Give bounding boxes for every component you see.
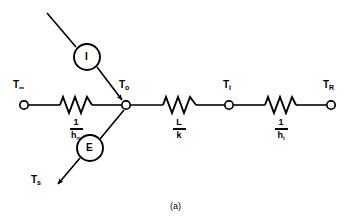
wire-I-upper-lead xyxy=(47,13,76,47)
node-terminal-t-infinity xyxy=(20,101,28,109)
node-terminal-t-i xyxy=(225,101,233,109)
node-label-t-zero: To xyxy=(119,80,129,90)
current-source-I-label: I xyxy=(85,52,88,62)
node-label-t-infinity: T∞ xyxy=(13,80,24,90)
node-terminal-t-zero xyxy=(122,101,130,109)
resistor-label-conduction: L k xyxy=(166,118,192,140)
fraction-numerator: 1 xyxy=(63,118,89,128)
thermal-circuit-diagram: T∞ To Ti TR Ts I E 1 h∞ L k 1 hi (a) xyxy=(0,0,356,223)
circuit-schematic-svg xyxy=(0,0,356,223)
node-terminal-t-r xyxy=(327,101,335,109)
wire-E-lower-lead-arrow xyxy=(58,158,80,184)
resistor-inner-convection-symbol xyxy=(265,97,296,113)
resistor-label-outer-convection: 1 h∞ xyxy=(63,118,89,140)
fraction-denominator: hi xyxy=(268,130,294,140)
wire-E-upper-lead xyxy=(100,110,124,139)
fraction-numerator: 1 xyxy=(268,118,294,128)
node-label-t-i: Ti xyxy=(223,80,231,90)
fraction-denominator: k xyxy=(166,130,192,140)
fraction-denominator: h∞ xyxy=(63,130,89,140)
figure-caption: (a) xyxy=(170,202,181,211)
resistor-outer-convection-symbol xyxy=(60,97,92,113)
source-E-label: E xyxy=(86,143,93,153)
node-label-t-s: Ts xyxy=(31,175,41,185)
resistor-conduction-symbol xyxy=(163,97,196,113)
node-label-t-r: TR xyxy=(323,80,334,90)
resistor-label-inner-convection: 1 hi xyxy=(268,118,294,140)
fraction-numerator: L xyxy=(166,118,192,128)
